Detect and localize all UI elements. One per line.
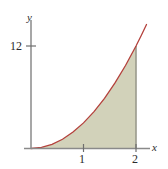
x-tick-label-2: 2 (132, 153, 138, 165)
y-axis-label: y (27, 12, 32, 23)
figure-area-under-curve: 12 1 2 y x (0, 0, 168, 169)
x-axis-label: x (152, 142, 157, 153)
plot-svg (0, 0, 168, 169)
x-tick-label-1: 1 (79, 153, 85, 165)
y-tick-label-12: 12 (10, 40, 22, 52)
shaded-area-region (31, 46, 136, 149)
